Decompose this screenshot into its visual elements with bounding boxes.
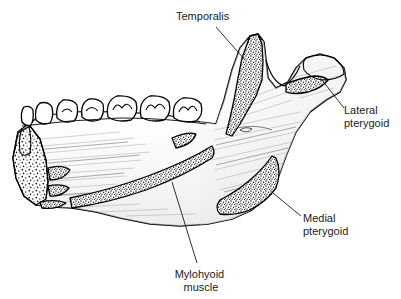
leader-medial-pterygoid bbox=[273, 193, 301, 216]
mandible-bone bbox=[10, 34, 350, 230]
label-medial-pterygoid-line-1: Medial bbox=[303, 212, 335, 224]
mandible-illustration: Temporalis Lateral pterygoid Medial pter… bbox=[0, 0, 401, 299]
label-mylohyoid-line-1: Mylohyoid bbox=[175, 268, 225, 280]
label-temporalis-line-1: Temporalis bbox=[176, 10, 230, 22]
tooth bbox=[21, 106, 33, 125]
tooth bbox=[82, 99, 104, 121]
label-lateral-pterygoid: Lateral pterygoid bbox=[344, 104, 389, 129]
tooth bbox=[36, 103, 53, 125]
label-mylohyoid-line-2: muscle bbox=[184, 281, 219, 293]
label-temporalis: Temporalis bbox=[176, 10, 230, 22]
anatomical-figure: Temporalis Lateral pterygoid Medial pter… bbox=[0, 0, 401, 299]
label-medial-pterygoid: Medial pterygoid bbox=[303, 212, 348, 237]
leader-temporalis bbox=[216, 27, 245, 60]
label-medial-pterygoid-line-2: pterygoid bbox=[303, 225, 348, 237]
label-mylohyoid-muscle: Mylohyoid muscle bbox=[175, 268, 228, 293]
label-lateral-pterygoid-line-2: pterygoid bbox=[344, 117, 389, 129]
tooth bbox=[57, 100, 78, 122]
label-lateral-pterygoid-line-1: Lateral bbox=[344, 104, 378, 116]
